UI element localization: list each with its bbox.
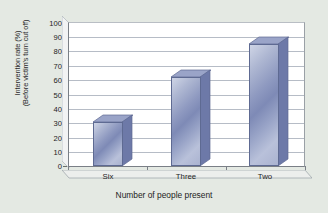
bar-six-side-face <box>122 115 133 166</box>
y-tick-90: 90 <box>38 34 62 42</box>
y-tick-100: 100 <box>38 20 62 28</box>
x-divider-3 <box>305 166 306 170</box>
bar-six-front-face <box>93 122 123 166</box>
y-tick-10: 10 <box>38 149 62 157</box>
bar-three <box>171 77 201 166</box>
x-divider-2 <box>226 166 227 170</box>
y-tick-60: 60 <box>38 77 62 85</box>
y-tick-70: 70 <box>38 63 62 71</box>
bar-chart: Intervention rate (%) (Before victim's t… <box>0 0 328 213</box>
bar-two <box>249 44 279 166</box>
bar-three-side-face <box>200 70 211 166</box>
x-divider-1 <box>147 166 148 170</box>
y-tick-40: 40 <box>38 106 62 114</box>
x-tick-label-two: Two <box>242 172 288 181</box>
y-tick-0: 0 <box>38 163 62 171</box>
bar-three-front-face <box>171 77 201 166</box>
y-axis-title-line-2: (Before victim's turn cut off) <box>22 20 31 107</box>
y-tick-80: 80 <box>38 48 62 56</box>
x-axis-title: Number of people present <box>0 190 328 200</box>
bar-six <box>93 122 123 166</box>
y-axis-tick-labels: 100 90 80 70 60 50 40 30 20 10 0 <box>38 0 62 213</box>
y-tick-20: 20 <box>38 135 62 143</box>
plot-area <box>68 22 305 167</box>
x-tick-label-three: Three <box>162 172 210 181</box>
y-axis-title: Intervention rate (%) (Before victim's t… <box>7 0 37 133</box>
bar-two-front-face <box>249 44 279 166</box>
x-tick-label-six: Six <box>85 172 131 181</box>
y-tick-30: 30 <box>38 120 62 128</box>
bar-two-side-face <box>278 37 289 166</box>
y-tick-50: 50 <box>38 92 62 100</box>
x-divider-0 <box>68 166 69 170</box>
